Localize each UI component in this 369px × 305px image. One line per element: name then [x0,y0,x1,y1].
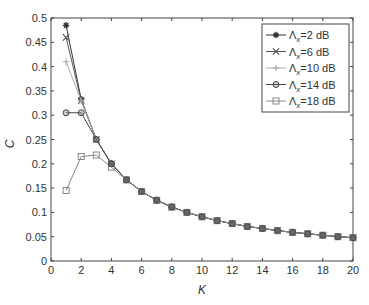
circle-marker-icon [63,110,69,116]
x-tick-label: 8 [169,264,175,276]
x-tick-label: 0 [48,264,54,276]
y-tick-label: 0.25 [26,134,47,146]
asterisk-marker-icon [63,22,69,28]
series-line [63,152,356,241]
x-tick-label: 18 [317,264,329,276]
x-tick-label: 6 [139,264,145,276]
x-tick-label: 12 [226,264,238,276]
line-chart: 0246810121416182000.050.10.150.20.250.30… [0,0,369,305]
x-tick-label: 2 [78,264,84,276]
legend: Λx=2 dBΛx=6 dBΛx=10 dBΛx=14 dBΛx=18 dB [262,24,349,112]
y-tick-label: 0.05 [26,231,47,243]
y-tick-label: 0.5 [32,12,47,24]
series-line [63,110,356,241]
circle-marker-icon [78,110,84,116]
x-tick-label: 16 [286,264,298,276]
y-tick-label: 0.3 [32,109,47,121]
chart-canvas: 0246810121416182000.050.10.150.20.250.30… [0,0,369,305]
y-axis-label: C [3,139,17,148]
x-tick-label: 4 [108,264,114,276]
y-tick-label: 0.1 [32,206,47,218]
y-tick-label: 0.4 [32,61,47,73]
circle-marker-icon [273,82,279,88]
circle-marker-icon [93,137,99,143]
y-tick-label: 0.35 [26,85,47,97]
x-tick-label: 20 [347,264,359,276]
y-tick-label: 0.2 [32,158,47,170]
x-tick-label: 10 [196,264,208,276]
y-tick-label: 0.45 [26,36,47,48]
x-axis-label: K [198,283,207,297]
x-tick-label: 14 [256,264,268,276]
y-tick-label: 0 [41,255,47,267]
plus-marker-icon [63,59,69,65]
y-tick-label: 0.15 [26,182,47,194]
